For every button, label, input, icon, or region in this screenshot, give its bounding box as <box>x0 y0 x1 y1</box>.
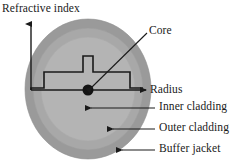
label-core: Core <box>149 25 172 37</box>
x-axis-label-radius: Radius <box>150 84 183 96</box>
core-dot-marker <box>83 85 94 96</box>
refractive-index-figure: Refractive index Core Radius Inner cladd… <box>0 0 235 166</box>
label-outer-cladding: Outer cladding <box>159 122 229 134</box>
label-inner-cladding: Inner cladding <box>159 101 227 113</box>
y-axis-label-refractive-index: Refractive index <box>2 3 80 15</box>
label-buffer-jacket: Buffer jacket <box>159 143 220 155</box>
